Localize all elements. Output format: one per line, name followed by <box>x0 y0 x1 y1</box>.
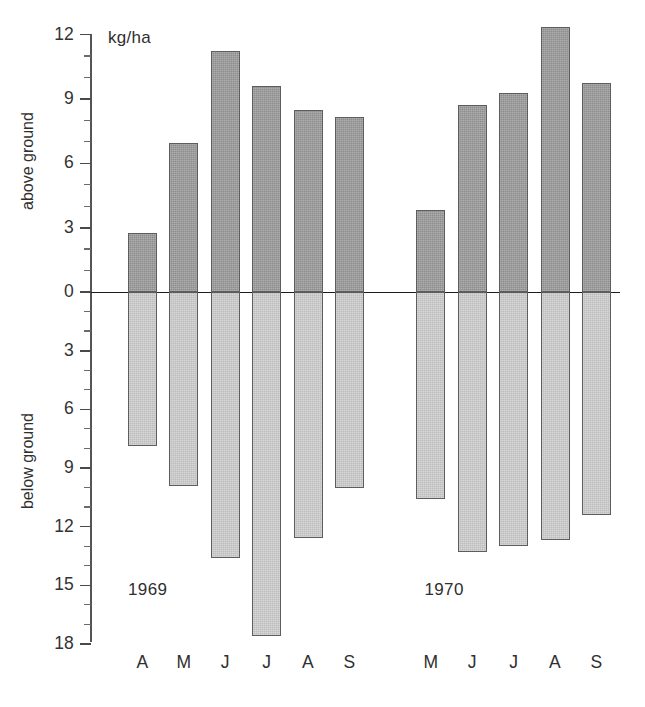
axis-tick-major <box>80 585 91 587</box>
axis-tick-minor <box>84 604 91 605</box>
bar-above-ground <box>294 110 323 292</box>
bar-below-ground <box>416 292 445 499</box>
bar-below-ground <box>169 292 198 486</box>
bar-above-ground <box>211 51 240 292</box>
category-label: A <box>122 652 163 673</box>
axis-tick-major <box>80 350 91 352</box>
bar-above-ground <box>582 83 611 292</box>
bar-above-ground <box>416 210 445 292</box>
bar-chart: kg/ha above ground below ground 03691236… <box>0 0 645 707</box>
axis-tick-major <box>80 467 91 469</box>
unit-caption: kg/ha <box>108 28 151 48</box>
bar-above-ground <box>169 143 198 292</box>
bar-below-ground <box>128 292 157 446</box>
category-label: M <box>163 652 204 673</box>
axis-tick-minor <box>84 506 91 507</box>
axis-tick-minor <box>84 55 91 56</box>
axis-tick-major <box>80 643 91 645</box>
bar-above-ground <box>252 86 281 292</box>
bar-above-ground <box>541 27 570 292</box>
axis-tick-minor <box>84 565 91 566</box>
axis-tick-minor <box>84 77 91 78</box>
axis-tick-minor <box>84 487 91 488</box>
axis-tick-minor <box>84 248 91 249</box>
axis-tick-major <box>80 526 91 528</box>
category-label: S <box>329 652 370 673</box>
axis-tick-major <box>80 291 91 293</box>
axis-tick-label: 12 <box>22 24 74 45</box>
axis-tick-major <box>80 163 91 165</box>
axis-tick-label: 9 <box>22 88 74 109</box>
bar-below-ground <box>335 292 364 488</box>
axis-tick-label: 0 <box>22 281 74 302</box>
category-label: J <box>452 652 493 673</box>
axis-tick-minor <box>84 370 91 371</box>
category-label: A <box>535 652 576 673</box>
category-label: S <box>576 652 617 673</box>
axis-tick-label: 9 <box>22 457 74 478</box>
bar-above-ground <box>458 105 487 292</box>
axis-tick-label: 3 <box>22 217 74 238</box>
bar-above-ground <box>499 93 528 292</box>
axis-tick-minor <box>84 428 91 429</box>
bar-below-ground <box>294 292 323 538</box>
bar-below-ground <box>458 292 487 552</box>
category-label: J <box>205 652 246 673</box>
axis-tick-major <box>80 409 91 411</box>
bar-below-ground <box>211 292 240 558</box>
axis-tick-major <box>80 34 91 36</box>
axis-tick-minor <box>84 270 91 271</box>
axis-tick-label: 6 <box>22 152 74 173</box>
category-label: J <box>246 652 287 673</box>
axis-tick-minor <box>84 546 91 547</box>
bar-above-ground <box>128 233 157 292</box>
group-year-label: 1970 <box>416 580 619 600</box>
axis-tick-label: 18 <box>22 633 74 654</box>
category-label: J <box>493 652 534 673</box>
axis-tick-major <box>80 98 91 100</box>
axis-tick-label: 3 <box>22 340 74 361</box>
axis-tick-minor <box>84 389 91 390</box>
axis-tick-minor <box>84 120 91 121</box>
category-label: A <box>288 652 329 673</box>
axis-tick-minor <box>84 448 91 449</box>
axis-tick-minor <box>84 141 91 142</box>
axis-tick-label: 6 <box>22 398 74 419</box>
axis-tick-label: 12 <box>22 516 74 537</box>
axis-tick-major <box>80 227 91 229</box>
axis-tick-minor <box>84 206 91 207</box>
bar-above-ground <box>335 117 364 292</box>
bar-below-ground <box>499 292 528 546</box>
axis-tick-minor <box>84 184 91 185</box>
bar-below-ground <box>582 292 611 515</box>
group-year-label: 1969 <box>128 580 364 600</box>
category-label: M <box>410 652 451 673</box>
bar-below-ground <box>541 292 570 540</box>
axis-tick-minor <box>84 311 91 312</box>
axis-tick-label: 15 <box>22 574 74 595</box>
axis-tick-minor <box>84 330 91 331</box>
y-axis-line <box>90 34 92 642</box>
axis-tick-minor <box>84 624 91 625</box>
